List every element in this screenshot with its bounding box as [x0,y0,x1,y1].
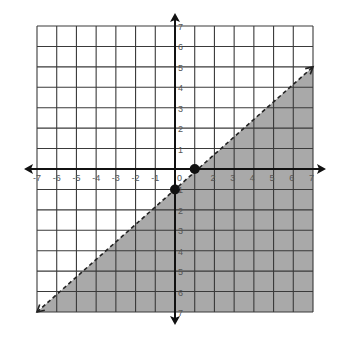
y-tick-label: 2 [178,124,183,134]
x-tick-label: 3 [230,173,235,183]
y-tick-label: 1 [178,185,183,195]
x-tick-label: 0 [177,173,182,183]
x-tick-label: 4 [250,173,255,183]
y-tick-label: 6 [178,42,183,52]
y-tick-label: 7 [178,308,183,318]
x-tick-label: 2 [210,173,215,183]
y-tick-label: 6 [178,288,183,298]
x-tick-label: -4 [92,173,100,183]
x-tick-label: -2 [132,173,140,183]
x-tick-label: -7 [33,173,41,183]
y-tick-label: 4 [178,247,183,257]
x-tick-label: 6 [289,173,294,183]
y-tick-label: 3 [178,104,183,114]
x-tick-label: -6 [53,173,61,183]
y-tick-label: 7 [178,22,183,32]
x-tick-label: -3 [112,173,120,183]
y-tick-label: 3 [178,226,183,236]
x-tick-label: -5 [72,173,80,183]
x-tick-label: 7 [309,173,314,183]
coordinate-graph: -7-6-5-4-3-2-1023456776543211234567 [0,0,346,345]
data-point [190,164,200,174]
y-tick-label: 5 [178,63,183,73]
y-tick-label: 5 [178,267,183,277]
y-tick-label: 1 [178,145,183,155]
y-tick-label: 2 [178,206,183,216]
y-tick-label: 4 [178,83,183,93]
x-tick-label: -1 [151,173,159,183]
x-tick-label: 5 [270,173,275,183]
